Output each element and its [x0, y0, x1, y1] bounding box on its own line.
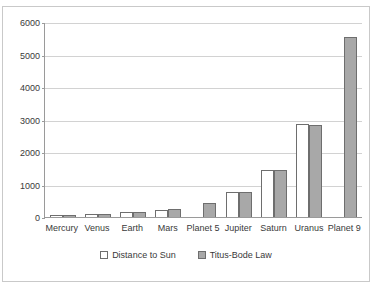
bar-group: [221, 23, 256, 217]
chart-legend: Distance to SunTitus-Bode Law: [3, 250, 369, 260]
legend-label: Distance to Sun: [112, 250, 176, 260]
bar-group: [151, 23, 186, 217]
bar[interactable]: [203, 203, 216, 217]
plot-area: 0100020003000400050006000: [44, 23, 362, 218]
legend-item[interactable]: Titus-Bode Law: [198, 250, 272, 260]
bar[interactable]: [261, 170, 274, 217]
bar[interactable]: [155, 210, 168, 217]
bar-groups: [45, 23, 362, 217]
legend-label: Titus-Bode Law: [210, 250, 272, 260]
bar-group: [80, 23, 115, 217]
y-axis-tick-label: 1000: [20, 181, 40, 190]
legend-swatch-gray-icon: [198, 251, 206, 259]
bar[interactable]: [239, 192, 252, 217]
x-axis-label-venus: Venus: [79, 220, 114, 236]
legend-swatch-white-icon: [100, 251, 108, 259]
legend-item[interactable]: Distance to Sun: [100, 250, 176, 260]
y-axis-tick-label: 5000: [20, 51, 40, 60]
chart-frame: 0100020003000400050006000 MercuryVenusEa…: [2, 6, 370, 282]
bar[interactable]: [120, 212, 133, 217]
bar[interactable]: [296, 124, 309, 218]
bar[interactable]: [85, 214, 98, 218]
bar[interactable]: [98, 214, 111, 217]
y-axis-tick-mark: [42, 218, 45, 219]
y-axis-tick-label: 0: [35, 214, 40, 223]
x-axis-label-uranus: Uranus: [291, 220, 326, 236]
bar-group: [292, 23, 327, 217]
bar[interactable]: [168, 209, 181, 217]
bar-group: [45, 23, 80, 217]
bar[interactable]: [274, 170, 287, 217]
x-axis-label-mars: Mars: [150, 220, 185, 236]
y-axis-tick-label: 3000: [20, 116, 40, 125]
x-axis-label-saturn: Saturn: [256, 220, 291, 236]
bar[interactable]: [226, 192, 239, 217]
x-axis-label-planet-9: Planet 9: [327, 220, 362, 236]
y-axis-tick-label: 4000: [20, 84, 40, 93]
bar[interactable]: [50, 215, 63, 217]
bar[interactable]: [63, 215, 76, 217]
x-axis-label-mercury: Mercury: [44, 220, 79, 236]
y-axis-tick-label: 6000: [20, 19, 40, 28]
bar[interactable]: [309, 125, 322, 217]
bar[interactable]: [133, 212, 146, 217]
y-axis-tick-label: 2000: [20, 149, 40, 158]
bar-group: [115, 23, 150, 217]
x-axis-label-jupiter: Jupiter: [221, 220, 256, 236]
bar-group: [186, 23, 221, 217]
bar[interactable]: [344, 37, 357, 217]
x-axis-label-planet-5: Planet 5: [185, 220, 220, 236]
bar-group: [327, 23, 362, 217]
x-axis-label-earth: Earth: [115, 220, 150, 236]
bar-group: [256, 23, 291, 217]
x-axis-labels: MercuryVenusEarthMarsPlanet 5JupiterSatu…: [44, 220, 362, 236]
